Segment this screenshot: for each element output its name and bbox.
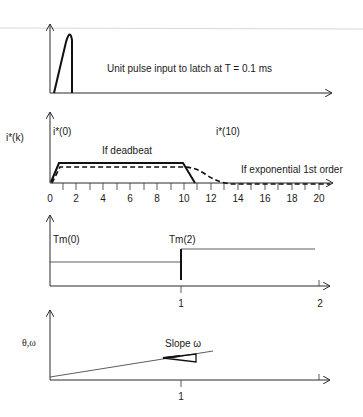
current-x-tick-labels: 0 2 4 6 8 10 12 14 16 18 20 [47,193,325,204]
svg-text:18: 18 [286,193,298,204]
pulse-caption: Unit pulse input to latch at T = 0.1 ms [107,63,272,74]
svg-text:4: 4 [100,193,106,204]
svg-text:0: 0 [47,193,53,204]
torque-tick-label-1: 1 [178,298,184,309]
label-deadbeat: If deadbeat [102,145,152,156]
angle-panel: θ,ω Slope ω 1 [22,310,330,402]
svg-text:10: 10 [178,193,190,204]
slope-triangle-hyp [163,356,180,358]
diagram-canvas: Unit pulse input to latch at T = 0.1 ms … [0,0,363,417]
label-i10: i*(10) [216,126,240,137]
label-i0: i*(0) [53,126,71,137]
label-exponential: If exponential 1st order [241,164,343,175]
svg-text:12: 12 [205,193,217,204]
deadbeat-curve [51,163,195,183]
label-tm2: Tm(2) [169,234,196,245]
label-slope: Slope ω [165,338,201,349]
pulse-panel: Unit pulse input to latch at T = 0.1 ms [50,24,332,93]
svg-text:8: 8 [154,193,160,204]
current-y-label: i*(k) [6,132,24,143]
angle-tick-label-1: 1 [178,391,184,402]
top-rule [0,28,363,29]
svg-text:14: 14 [232,193,244,204]
current-panel: i*(k) i*(0) i*(10) If deadbeat If expone… [6,112,343,204]
svg-text:20: 20 [313,193,325,204]
label-tm0: Tm(0) [53,234,80,245]
torque-panel: Tm(0) Tm(2) 1 2 [50,215,330,309]
pulse-curve [54,34,72,93]
svg-text:2: 2 [73,193,79,204]
angle-y-label: θ,ω [22,337,36,348]
torque-tick-label-2: 2 [317,298,323,309]
svg-text:16: 16 [259,193,271,204]
svg-text:6: 6 [127,193,133,204]
